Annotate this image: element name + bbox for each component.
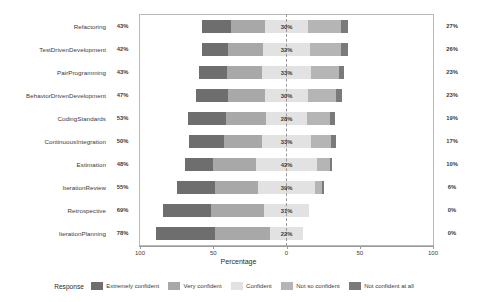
center-confident-percent: 32% (281, 47, 293, 53)
segment-not-confident-at-all (336, 89, 342, 102)
segment-very-confident (211, 204, 264, 217)
legend-swatch-icon (281, 282, 293, 290)
segment-very-confident (213, 158, 255, 171)
likert-chart: RefactoringTestDrivenDevelopmentPairProg… (0, 0, 477, 302)
center-confident-percent: 31% (281, 208, 293, 214)
left-total-percent: 42% (106, 46, 139, 52)
segment-not-so-confident (308, 20, 340, 33)
right-total-percent: 0% (434, 207, 470, 213)
category-label: ContinuousIntegration (44, 137, 106, 144)
x-tick (213, 246, 214, 249)
category-axis-labels: RefactoringTestDrivenDevelopmentPairProg… (0, 14, 106, 246)
category-label: Refactoring (74, 22, 106, 29)
left-total-percent: 55% (106, 184, 139, 190)
x-tick-label: 100 (135, 250, 145, 256)
segment-very-confident (228, 43, 263, 56)
segment-extremely-confident (196, 89, 228, 102)
right-total-percent: 23% (434, 69, 470, 75)
legend-swatch-icon (231, 282, 243, 290)
right-total-percent: 27% (434, 23, 470, 29)
segment-very-confident (215, 227, 271, 240)
legend-item-label: Very confident (184, 283, 222, 289)
x-tick-label: 50 (356, 250, 363, 256)
x-tick (287, 246, 288, 249)
legend-item-label: Extremely confident (106, 283, 159, 289)
legend: Response Extremely confidentVery confide… (0, 279, 477, 293)
segment-extremely-confident (189, 135, 224, 148)
segment-very-confident (228, 89, 265, 102)
center-confident-percent: 22% (281, 231, 293, 237)
x-tick (140, 246, 141, 249)
segment-not-so-confident (310, 43, 341, 56)
segment-not-so-confident (317, 158, 330, 171)
segment-extremely-confident (188, 112, 226, 125)
center-confident-percent: 28% (281, 116, 293, 122)
segment-not-confident-at-all (339, 66, 345, 79)
segment-extremely-confident (199, 66, 227, 79)
right-total-percent: 6% (434, 184, 470, 190)
center-confident-percent: 39% (281, 185, 293, 191)
legend-item[interactable]: Confident (231, 282, 272, 290)
segment-not-confident-at-all (341, 20, 348, 33)
segment-very-confident (215, 181, 257, 194)
segment-extremely-confident (177, 181, 215, 194)
segment-extremely-confident (202, 43, 228, 56)
category-label: BehaviorDrivenDevelopment (26, 91, 106, 98)
segment-not-confident-at-all (331, 135, 335, 148)
segment-very-confident (224, 135, 262, 148)
segment-extremely-confident (202, 20, 231, 33)
x-tick (433, 246, 434, 249)
legend-item-label: Not so confident (296, 283, 339, 289)
center-confident-percent: 30% (281, 24, 293, 30)
segment-very-confident (231, 20, 265, 33)
left-total-percent: 69% (106, 207, 139, 213)
left-total-percent: 47% (106, 92, 139, 98)
x-tick-label: 100 (428, 250, 438, 256)
legend-item-label: Not confident at all (364, 283, 414, 289)
left-total-percent: 43% (106, 69, 139, 75)
right-total-percent: 0% (434, 230, 470, 236)
center-confident-percent: 30% (281, 93, 293, 99)
category-label: CodingStandards (57, 114, 106, 121)
segment-not-confident-at-all (341, 43, 348, 56)
segment-not-confident-at-all (330, 158, 331, 171)
category-label: IterationReview (63, 183, 106, 190)
left-total-percent: 53% (106, 115, 139, 121)
right-total-percent: 23% (434, 92, 470, 98)
x-tick-label: 0 (285, 250, 288, 256)
segment-very-confident (226, 112, 266, 125)
segment-not-confident-at-all (322, 181, 323, 194)
right-total-percent-column: 27%26%23%23%19%17%10%6%0%0% (434, 14, 477, 246)
category-label: TestDrivenDevelopment (39, 45, 106, 52)
right-total-percent: 10% (434, 161, 470, 167)
center-confident-percent: 42% (281, 162, 293, 168)
right-total-percent: 26% (434, 46, 470, 52)
segment-not-so-confident (311, 66, 339, 79)
x-tick (360, 246, 361, 249)
legend-item[interactable]: Very confident (168, 282, 222, 290)
segment-not-so-confident (315, 181, 322, 194)
legend-item[interactable]: Extremely confident (91, 282, 159, 290)
right-total-percent: 19% (434, 115, 470, 121)
center-confident-percent: 33% (281, 70, 293, 76)
legend-item-label: Confident (246, 283, 272, 289)
segment-very-confident (227, 66, 262, 79)
right-total-percent: 17% (434, 138, 470, 144)
segment-not-so-confident (308, 89, 336, 102)
category-label: PairProgramming (57, 68, 106, 75)
left-total-percent-column: 43%42%43%47%53%50%48%55%69%78% (106, 14, 139, 246)
segment-not-confident-at-all (330, 112, 334, 125)
legend-title: Response (54, 283, 84, 290)
legend-item[interactable]: Not so confident (281, 282, 340, 290)
category-label: IterationPlanning (59, 229, 106, 236)
legend-swatch-icon (91, 282, 103, 290)
segment-extremely-confident (163, 204, 211, 217)
legend-item[interactable]: Not confident at all (349, 282, 414, 290)
center-confident-percent: 33% (281, 139, 293, 145)
legend-swatch-icon (349, 282, 361, 290)
segment-extremely-confident (156, 227, 215, 240)
segment-not-so-confident (307, 112, 330, 125)
x-axis-title: Percentage (0, 258, 477, 265)
x-tick-label: 50 (210, 250, 217, 256)
segment-not-so-confident (311, 135, 332, 148)
